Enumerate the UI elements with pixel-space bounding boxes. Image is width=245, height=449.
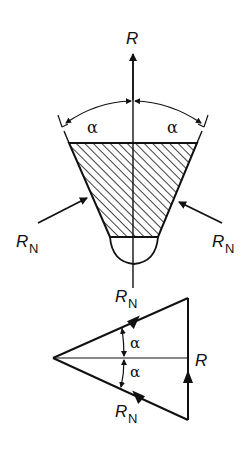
normal-force-right-label: R: [212, 232, 224, 251]
triangle-right-arrowhead: [183, 370, 193, 383]
angle-label-left: α: [87, 118, 98, 137]
triangle-angle-arc-lower: [121, 360, 124, 387]
normal-force-left-subscript: N: [29, 241, 38, 256]
normal-force-left-arrow: [38, 198, 87, 223]
wedge-section: [38, 54, 222, 288]
angle-label-right: α: [167, 118, 178, 137]
triangle-angle-label-lower: α: [130, 363, 140, 381]
triangle-bottom-label: R: [115, 402, 127, 421]
triangle-angle-arc-upper: [122, 328, 124, 356]
normal-force-right-arrow: [179, 202, 222, 223]
normal-force-left-label: R: [16, 232, 28, 251]
groove-bottom: [110, 237, 158, 264]
triangle-top-label: R: [115, 287, 127, 306]
triangle-angle-label-upper: α: [130, 334, 140, 352]
belt-force-diagram: R α α R N R N R N α α R R N: [0, 0, 245, 449]
normal-force-right-subscript: N: [225, 241, 234, 256]
angle-arc-left: [66, 101, 131, 123]
triangle-resultant-label: R: [195, 351, 207, 370]
resultant-label: R: [126, 29, 138, 48]
triangle-top-subscript: N: [128, 296, 137, 311]
triangle-bottom-subscript: N: [128, 411, 137, 426]
